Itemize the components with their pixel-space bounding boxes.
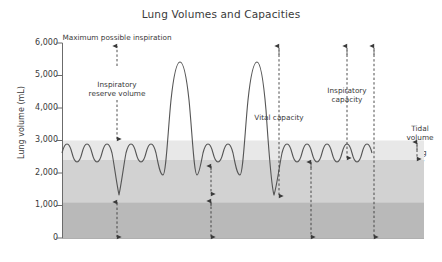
y-axis: [56, 43, 63, 238]
lung-volumes-figure: Lung Volumes and Capacities Lung volume …: [0, 0, 442, 262]
band-residual-volume: [62, 202, 424, 238]
chart-canvas: [0, 0, 442, 262]
